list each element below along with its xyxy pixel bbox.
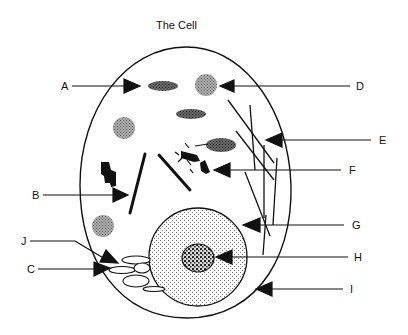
mitochondrion	[148, 81, 178, 91]
diagram-title: The Cell	[156, 19, 197, 31]
label-B: B	[32, 189, 39, 201]
label-G: G	[352, 219, 361, 231]
label-H: H	[354, 251, 362, 263]
nucleolus	[182, 244, 214, 272]
ribosome	[181, 151, 200, 162]
label-F: F	[349, 164, 356, 176]
label-C: C	[27, 263, 35, 275]
rod	[159, 155, 190, 190]
mitochondrion	[206, 138, 236, 152]
mitochondrion	[176, 109, 206, 119]
label-J: J	[21, 235, 27, 247]
rod	[130, 154, 145, 213]
label-D: D	[356, 80, 364, 92]
label-E: E	[379, 134, 386, 146]
lysosome	[92, 215, 114, 237]
cell-diagram: The Cell	[0, 0, 408, 335]
lysosome	[113, 117, 135, 139]
lysosome	[195, 74, 217, 96]
ribosome	[200, 160, 210, 174]
dark-granule	[101, 162, 116, 187]
label-A: A	[61, 80, 69, 92]
label-I: I	[350, 283, 353, 295]
